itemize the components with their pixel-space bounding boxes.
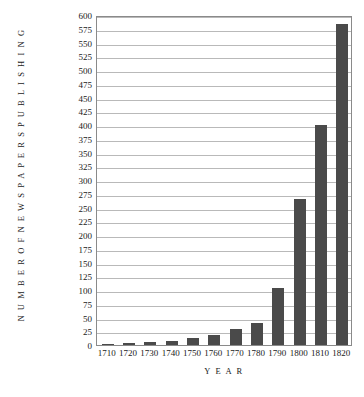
plot-area bbox=[96, 16, 352, 346]
newspapers-publishing-bar-chart: N U M B E R O F N E W S P A P E R S P U … bbox=[0, 0, 364, 397]
y-axis-tick-label: 525 bbox=[79, 53, 93, 62]
x-axis-tick-label: 1730 bbox=[140, 348, 158, 358]
bar bbox=[144, 342, 156, 345]
y-axis-tick-label: 100 bbox=[79, 287, 93, 296]
bar bbox=[102, 344, 114, 345]
y-axis-tick-label: 575 bbox=[79, 25, 93, 34]
y-axis-tick-label: 325 bbox=[79, 163, 93, 172]
x-axis-tick-label: 1760 bbox=[204, 348, 222, 358]
y-axis-tick-label: 0 bbox=[88, 342, 93, 351]
y-axis-tick-label: 175 bbox=[79, 245, 93, 254]
bar bbox=[336, 24, 348, 345]
bar bbox=[166, 341, 178, 345]
y-axis-tick-label: 400 bbox=[79, 122, 93, 131]
x-axis-tick-label: 1790 bbox=[268, 348, 286, 358]
y-axis-tick-label: 125 bbox=[79, 273, 93, 282]
y-axis-tick-label: 475 bbox=[79, 80, 93, 89]
y-axis-tick-labels: 0255075100125150175200225250275300325350… bbox=[26, 16, 96, 346]
y-axis-tick-label: 50 bbox=[83, 314, 92, 323]
y-axis-tick-label: 275 bbox=[79, 190, 93, 199]
bar bbox=[230, 329, 242, 346]
y-axis-tick-label: 375 bbox=[79, 135, 93, 144]
y-axis-tick-label: 300 bbox=[79, 177, 93, 186]
bars-layer bbox=[97, 17, 351, 345]
y-axis-tick-label: 25 bbox=[83, 328, 92, 337]
x-axis-tick-labels: 1710172017301740175017601770178017901800… bbox=[96, 348, 352, 362]
y-axis-tick-label: 600 bbox=[79, 12, 93, 21]
y-axis-tick-label: 350 bbox=[79, 149, 93, 158]
y-axis-tick-label: 425 bbox=[79, 108, 93, 117]
x-axis-tick-label: 1750 bbox=[183, 348, 201, 358]
y-axis-tick-label: 75 bbox=[83, 300, 92, 309]
x-axis-tick-label: 1800 bbox=[290, 348, 308, 358]
bar bbox=[187, 338, 199, 345]
bar bbox=[272, 288, 284, 345]
y-axis-tick-label: 250 bbox=[79, 204, 93, 213]
bar bbox=[251, 323, 263, 345]
x-axis-tick-label: 1740 bbox=[162, 348, 180, 358]
y-axis-tick-label: 450 bbox=[79, 94, 93, 103]
x-axis-tick-label: 1780 bbox=[247, 348, 265, 358]
x-axis-tick-label: 1720 bbox=[119, 348, 137, 358]
bar bbox=[123, 343, 135, 345]
y-axis-tick-label: 225 bbox=[79, 218, 93, 227]
x-axis-tick-label: 1710 bbox=[98, 348, 116, 358]
bar bbox=[315, 125, 327, 345]
x-axis-title: Y E A R bbox=[96, 366, 352, 376]
x-axis-tick-label: 1770 bbox=[226, 348, 244, 358]
x-axis-tick-label: 1820 bbox=[332, 348, 350, 358]
y-axis-tick-label: 500 bbox=[79, 67, 93, 76]
bar bbox=[208, 335, 220, 345]
x-axis-tick-label: 1810 bbox=[311, 348, 329, 358]
bar bbox=[294, 199, 306, 345]
y-axis-tick-label: 150 bbox=[79, 259, 93, 268]
y-axis-tick-label: 550 bbox=[79, 39, 93, 48]
y-axis-tick-label: 200 bbox=[79, 232, 93, 241]
